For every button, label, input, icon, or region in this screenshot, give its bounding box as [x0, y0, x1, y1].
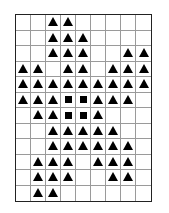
square-icon: [65, 112, 72, 119]
triangle-icon: [48, 110, 58, 119]
triangle-icon: [93, 126, 103, 135]
grid-cell-r7-c2: [31, 108, 46, 124]
grid-cell-r8-c4: [61, 124, 76, 140]
grid-cell-r4-c3: [46, 62, 61, 78]
grid-cell-r9-c6: [91, 139, 106, 155]
grid-cell-r6-c7: [106, 93, 121, 109]
grid-cell-r11-c1: [16, 170, 31, 186]
grid-cell-r9-c8: [121, 139, 136, 155]
triangle-icon: [93, 79, 103, 88]
triangle-icon: [33, 172, 43, 181]
grid-cell-r11-c3: [46, 170, 61, 186]
grid-cell-r8-c7: [106, 124, 121, 140]
grid-cell-r7-c5: [76, 108, 91, 124]
triangle-icon: [63, 33, 73, 42]
grid-cell-r11-c9: [136, 170, 151, 186]
triangle-icon: [108, 157, 118, 166]
grid-cell-r12-c3: [46, 186, 61, 202]
triangle-icon: [108, 172, 118, 181]
grid-cell-r1-c4: [61, 15, 76, 31]
grid-cell-r5-c3: [46, 77, 61, 93]
grid-cell-r2-c9: [136, 31, 151, 47]
grid-cell-r8-c9: [136, 124, 151, 140]
grid-cell-r9-c9: [136, 139, 151, 155]
triangle-icon: [48, 48, 58, 57]
grid-cell-r12-c9: [136, 186, 151, 202]
grid-cell-r6-c9: [136, 93, 151, 109]
grid-cell-r9-c5: [76, 139, 91, 155]
grid-cell-r2-c5: [76, 31, 91, 47]
grid-cell-r10-c4: [61, 155, 76, 171]
grid-cell-r1-c6: [91, 15, 106, 31]
triangle-icon: [139, 79, 149, 88]
grid-cell-r12-c4: [61, 186, 76, 202]
grid-cell-r6-c5: [76, 93, 91, 109]
grid-cell-r4-c5: [76, 62, 91, 78]
triangle-icon: [93, 157, 103, 166]
triangle-icon: [93, 141, 103, 150]
grid-cell-r8-c2: [31, 124, 46, 140]
triangle-icon: [139, 64, 149, 73]
grid-cell-r7-c3: [46, 108, 61, 124]
grid-cell-r10-c1: [16, 155, 31, 171]
grid-cell-r6-c3: [46, 93, 61, 109]
grid-cell-r4-c6: [91, 62, 106, 78]
square-icon: [65, 96, 72, 103]
triangle-icon: [48, 188, 58, 197]
grid-cell-r1-c7: [106, 15, 121, 31]
triangle-icon: [48, 141, 58, 150]
triangle-icon: [18, 79, 28, 88]
grid-cell-r3-c1: [16, 46, 31, 62]
grid-cell-r3-c8: [121, 46, 136, 62]
triangle-icon: [63, 79, 73, 88]
grid-cell-r5-c4: [61, 77, 76, 93]
grid-cell-r3-c3: [46, 46, 61, 62]
triangle-icon: [123, 141, 133, 150]
triangle-icon: [63, 48, 73, 57]
grid-cell-r4-c7: [106, 62, 121, 78]
square-icon: [80, 96, 87, 103]
grid-cell-r3-c5: [76, 46, 91, 62]
triangle-icon: [93, 110, 103, 119]
triangle-icon: [48, 95, 58, 104]
grid-cell-r2-c8: [121, 31, 136, 47]
grid-cell-r1-c3: [46, 15, 61, 31]
grid-cell-r1-c1: [16, 15, 31, 31]
grid-cell-r10-c7: [106, 155, 121, 171]
grid-cell-r2-c4: [61, 31, 76, 47]
grid-cell-r11-c7: [106, 170, 121, 186]
grid-cell-r12-c7: [106, 186, 121, 202]
square-icon: [80, 112, 87, 119]
grid-cell-r9-c1: [16, 139, 31, 155]
triangle-icon: [63, 157, 73, 166]
triangle-icon: [108, 141, 118, 150]
grid-cell-r8-c5: [76, 124, 91, 140]
triangle-icon: [108, 64, 118, 73]
triangle-icon: [48, 33, 58, 42]
grid-cell-r12-c6: [91, 186, 106, 202]
grid-cell-r7-c9: [136, 108, 151, 124]
triangle-icon: [123, 48, 133, 57]
triangle-icon: [123, 79, 133, 88]
triangle-icon: [48, 157, 58, 166]
grid-cell-r10-c9: [136, 155, 151, 171]
grid-cell-r8-c1: [16, 124, 31, 140]
grid-cell-r10-c3: [46, 155, 61, 171]
triangle-icon: [33, 157, 43, 166]
grid-cell-r7-c4: [61, 108, 76, 124]
grid-cell-r2-c1: [16, 31, 31, 47]
triangle-icon: [78, 33, 88, 42]
triangle-icon: [123, 172, 133, 181]
triangle-icon: [33, 188, 43, 197]
triangle-icon: [78, 64, 88, 73]
triangle-icon: [93, 95, 103, 104]
symbol-grid: [15, 14, 152, 202]
triangle-icon: [123, 157, 133, 166]
triangle-icon: [63, 64, 73, 73]
grid-cell-r12-c8: [121, 186, 136, 202]
triangle-icon: [33, 64, 43, 73]
grid-cell-r12-c5: [76, 186, 91, 202]
grid-cell-r3-c4: [61, 46, 76, 62]
triangle-icon: [63, 141, 73, 150]
grid-cell-r6-c4: [61, 93, 76, 109]
